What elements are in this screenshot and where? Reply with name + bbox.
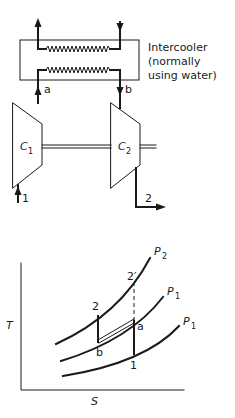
state-label-a: a bbox=[44, 83, 51, 96]
isobar-label-p2-sub: 2 bbox=[162, 252, 167, 261]
state-label-1: 1 bbox=[22, 192, 29, 205]
x-axis-label: S bbox=[91, 395, 98, 408]
arrow-right-icon bbox=[156, 204, 166, 211]
point-label-a: a bbox=[137, 320, 144, 333]
compressor-c1-subscript: 1 bbox=[28, 147, 33, 156]
axes bbox=[21, 263, 184, 390]
intercooler-label-line1: Intercooler bbox=[148, 41, 208, 54]
isobar-label-p1a-sub: 1 bbox=[175, 292, 180, 301]
ts-diagram: T S P 2 P 1 P 1 1 2 2′ a b bbox=[6, 245, 196, 408]
two-stage-compression-diagram: a b Intercooler (normally using water) C… bbox=[0, 0, 235, 418]
point-label-1: 1 bbox=[130, 359, 137, 372]
point-label-2: 2 bbox=[92, 300, 99, 313]
y-axis-label: T bbox=[6, 319, 14, 332]
process-a-b-inner bbox=[99, 323, 134, 343]
compressor-c2-subscript: 2 bbox=[126, 147, 131, 156]
shaft bbox=[42, 145, 156, 148]
intercooler-schematic: a b Intercooler (normally using water) C… bbox=[13, 18, 217, 211]
arrow-up-icon bbox=[35, 86, 42, 95]
intercooler-label-line2: (normally bbox=[148, 55, 201, 68]
isobar-label-p1b: P bbox=[183, 315, 190, 328]
state-label-b: b bbox=[125, 83, 132, 96]
arrow-down-icon bbox=[117, 23, 124, 32]
compressor-c1: C 1 1 bbox=[13, 103, 42, 205]
arrow-down-icon bbox=[117, 87, 124, 96]
arrow-up-icon bbox=[15, 186, 22, 195]
point-label-b: b bbox=[96, 346, 103, 359]
isobar-label-p1b-sub: 1 bbox=[191, 322, 196, 331]
compressor-c2-label: C bbox=[118, 140, 126, 153]
point-label-2prime: 2′ bbox=[127, 270, 137, 283]
arrow-up-icon bbox=[35, 18, 42, 27]
compressor-c2: C 2 2 bbox=[111, 103, 166, 211]
state-label-2: 2 bbox=[145, 192, 152, 205]
isobar-label-p2: P bbox=[154, 245, 161, 258]
isobar-label-p1a: P bbox=[167, 285, 174, 298]
intercooler-label-line3: using water) bbox=[148, 69, 217, 82]
compressor-c1-label: C bbox=[20, 140, 28, 153]
cooling-water-line bbox=[35, 18, 124, 52]
